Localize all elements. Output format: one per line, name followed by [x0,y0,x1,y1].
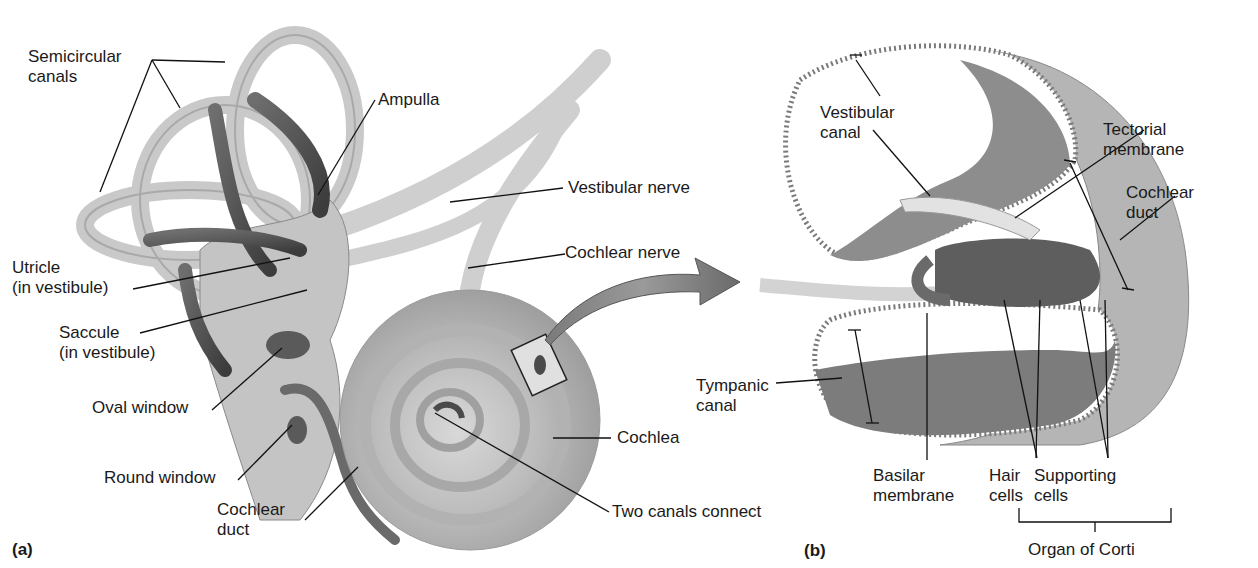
label-cochlear-duct-b: Cochlear duct [1126,183,1194,223]
label-utricle: Utricle (in vestibule) [12,258,108,298]
label-hair-cells: Hair cells [989,466,1023,506]
label-semicircular-canals: Semicircular canals [28,47,122,87]
label-two-canals-connect: Two canals connect [612,502,761,522]
label-cochlear-duct-a: Cochlear duct [217,500,285,540]
nerve-bundle [330,60,600,290]
label-round-window: Round window [104,468,216,488]
label-basilar-membrane: Basilar membrane [873,466,954,506]
label-oval-window: Oval window [92,398,188,418]
label-cochlear-nerve: Cochlear nerve [565,243,680,263]
oval-window-shape [266,331,310,359]
label-organ-of-corti: Organ of Corti [1028,540,1135,560]
label-cochlea: Cochlea [617,428,679,448]
label-saccule: Saccule (in vestibule) [59,323,155,363]
panel-label-a: (a) [12,540,33,560]
round-window-shape [287,416,307,444]
label-tectorial-membrane: Tectorial membrane [1103,120,1184,160]
panel-label-b: (b) [804,541,826,561]
label-supporting-cells: Supporting cells [1034,466,1116,506]
label-vestibular-canal: Vestibular canal [820,103,895,143]
inner-ear-figure: Semicircular canals Ampulla Vestibular n… [0,0,1258,568]
label-ampulla: Ampulla [378,90,439,110]
label-tympanic-canal: Tympanic canal [696,376,769,416]
label-vestibular-nerve: Vestibular nerve [568,178,690,198]
arrow-to-detail [545,258,740,345]
